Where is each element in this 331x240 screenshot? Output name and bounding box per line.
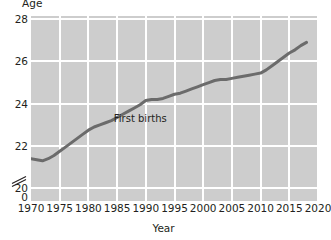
x-axis-title: Year	[0, 222, 327, 234]
y-tick-label: 24	[0, 99, 28, 110]
axis-break-icon	[10, 173, 32, 189]
series-line	[31, 42, 307, 160]
x-tick-label: 1995	[161, 203, 188, 214]
x-tick-label: 1990	[132, 203, 159, 214]
x-tick-label: 2015	[276, 203, 303, 214]
x-tick-label: 2000	[190, 203, 217, 214]
y-tick-label: 28	[0, 14, 28, 25]
y-tick-label: 22	[0, 141, 28, 152]
plot-area: First births	[31, 16, 318, 201]
x-tick-label: 1980	[75, 203, 102, 214]
x-tick-label: 1970	[18, 203, 45, 214]
x-axis-tick-labels: 1970197519801985199019952000200520102015…	[0, 203, 327, 219]
y-tick-label: 26	[0, 56, 28, 67]
series-first-births	[31, 16, 318, 201]
x-tick-label: 1985	[104, 203, 131, 214]
annotation-first-births: First births	[114, 113, 167, 124]
x-tick-label: 2020	[305, 203, 331, 214]
x-tick-label: 1975	[46, 203, 73, 214]
x-tick-label: 2005	[219, 203, 246, 214]
x-tick-label: 2010	[247, 203, 274, 214]
